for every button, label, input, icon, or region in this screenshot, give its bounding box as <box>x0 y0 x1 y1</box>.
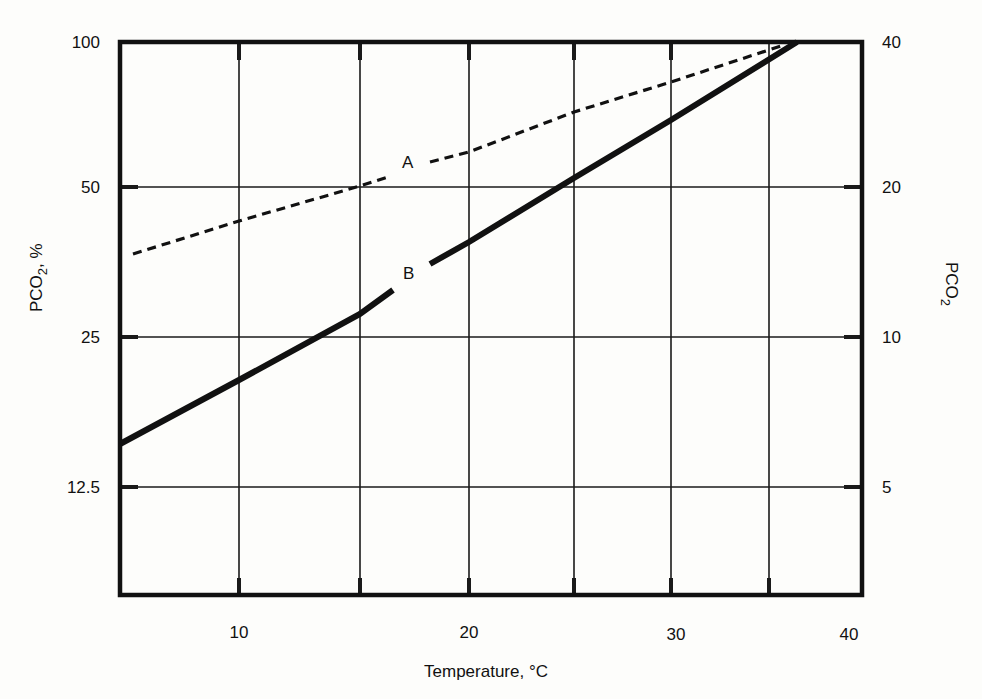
y-axis-right-title: PCO2 <box>938 262 961 306</box>
y-tick-right: 5 <box>882 478 891 497</box>
vertical-gridlines <box>239 42 769 595</box>
y-axis-left-title: PCO2, % <box>27 243 50 312</box>
series-b-label: B <box>403 264 414 283</box>
chart: A B 100 50 25 12.5 40 20 10 5 10 20 30 4… <box>0 0 982 699</box>
x-axis-title: Temperature, °C <box>424 662 548 681</box>
x-axis-ticks: 10 20 30 40 <box>230 623 859 644</box>
y-tick-left: 100 <box>72 33 100 52</box>
y-tick-left: 12.5 <box>67 478 100 497</box>
y-tick-right: 10 <box>882 328 901 347</box>
x-tick: 40 <box>840 625 859 644</box>
y-tick-left: 50 <box>81 178 100 197</box>
y-axis-right-ticks: 40 20 10 5 <box>882 33 901 497</box>
y-axis-left-ticks: 100 50 25 12.5 <box>67 33 100 497</box>
x-tick: 20 <box>460 623 479 642</box>
y-tick-left: 25 <box>81 328 100 347</box>
series-a-label: A <box>402 153 414 172</box>
x-tick: 30 <box>667 625 686 644</box>
series-b-line <box>120 42 797 444</box>
gridline-stubs <box>239 42 769 595</box>
y-tick-right: 40 <box>882 33 901 52</box>
y-tick-right: 20 <box>882 178 901 197</box>
series-a-line <box>133 45 784 254</box>
plot-frame <box>120 42 862 595</box>
x-tick: 10 <box>230 623 249 642</box>
